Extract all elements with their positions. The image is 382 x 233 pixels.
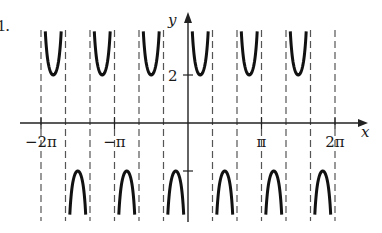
curve-branch-down <box>217 171 233 215</box>
curve-branch-up <box>45 31 61 75</box>
curve-branch-up <box>290 31 306 75</box>
y-axis-label: y <box>167 11 177 29</box>
curve-branch-down <box>70 171 86 215</box>
curve-branch-down <box>168 171 184 215</box>
curve-branch-down <box>266 171 282 215</box>
x-tick-label: −2π <box>25 133 57 151</box>
curve-branch-down <box>315 171 331 215</box>
y-axis-arrow-icon <box>184 12 192 23</box>
csc-graph: −2π−ππ2π x y 2 <box>0 0 382 233</box>
x-axis-label: x <box>361 123 370 141</box>
curve-branch-down <box>119 171 135 215</box>
x-ticks: −2π−ππ2π <box>25 117 345 151</box>
x-tick-label: 2π <box>325 133 345 151</box>
curve-branch-up <box>94 31 110 75</box>
x-tick-label: π <box>257 133 267 151</box>
x-tick-label: −π <box>103 133 126 151</box>
y-tick-label-2: 2 <box>168 67 178 85</box>
curve-branch-up <box>143 31 159 75</box>
curve-branch-up <box>241 31 257 75</box>
curve-branch-up <box>192 31 208 75</box>
